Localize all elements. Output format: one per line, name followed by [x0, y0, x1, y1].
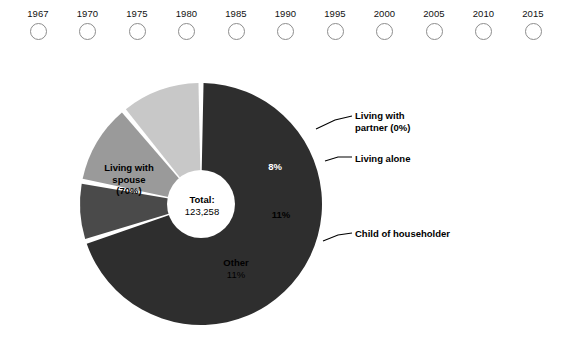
callout-alone-label: Living alone [355, 153, 410, 164]
year-option-2010[interactable]: 2010 [461, 8, 507, 40]
year-radio-2015[interactable] [525, 23, 542, 40]
leader-lines [316, 116, 352, 241]
year-radio-2010[interactable] [475, 23, 492, 40]
donut-chart-graphic [0, 58, 569, 344]
year-radio-2005[interactable] [426, 23, 443, 40]
year-option-1970[interactable]: 1970 [65, 8, 111, 40]
year-radio-1985[interactable] [228, 23, 245, 40]
callout-partner-line2: partner (0%) [355, 122, 410, 133]
year-option-1995[interactable]: 1995 [312, 8, 358, 40]
leader-line-child-of-householder [323, 233, 352, 241]
year-selector[interactable]: 1967197019751980198519901995200020052010… [0, 0, 569, 58]
year-option-1975[interactable]: 1975 [114, 8, 160, 40]
year-option-1990[interactable]: 1990 [263, 8, 309, 40]
year-option-1967[interactable]: 1967 [15, 8, 61, 40]
year-option-1985[interactable]: 1985 [213, 8, 259, 40]
year-option-2005[interactable]: 2005 [411, 8, 457, 40]
year-radio-2000[interactable] [376, 23, 393, 40]
callout-child-label: Child of householder [355, 228, 450, 239]
donut-chart: Living with spouse (70%) 8% 11% Other 11… [0, 58, 569, 344]
callout-child-of-householder: Child of householder [355, 228, 525, 240]
callout-partner-line1: Living with [355, 110, 405, 121]
year-radio-1990[interactable] [277, 23, 294, 40]
leader-line-living-with-partner [316, 116, 352, 129]
year-option-2000[interactable]: 2000 [362, 8, 408, 40]
donut-center-hub [167, 170, 235, 238]
year-label-1995: 1995 [312, 8, 358, 20]
year-label-1985: 1985 [213, 8, 259, 20]
year-label-2010: 2010 [461, 8, 507, 20]
year-label-1990: 1990 [263, 8, 309, 20]
leader-line-living-alone [325, 157, 352, 161]
year-label-2005: 2005 [411, 8, 457, 20]
year-label-1967: 1967 [15, 8, 61, 20]
year-option-2015[interactable]: 2015 [510, 8, 556, 40]
year-label-1975: 1975 [114, 8, 160, 20]
year-label-2015: 2015 [510, 8, 556, 20]
year-radio-1980[interactable] [178, 23, 195, 40]
year-radio-1975[interactable] [129, 23, 146, 40]
callout-living-with-partner: Living with partner (0%) [355, 110, 505, 134]
year-radio-1995[interactable] [327, 23, 344, 40]
year-label-2000: 2000 [362, 8, 408, 20]
year-label-1980: 1980 [164, 8, 210, 20]
year-option-1980[interactable]: 1980 [164, 8, 210, 40]
year-label-1970: 1970 [65, 8, 111, 20]
year-radio-1967[interactable] [30, 23, 47, 40]
callout-living-alone: Living alone [355, 153, 505, 165]
year-radio-1970[interactable] [79, 23, 96, 40]
